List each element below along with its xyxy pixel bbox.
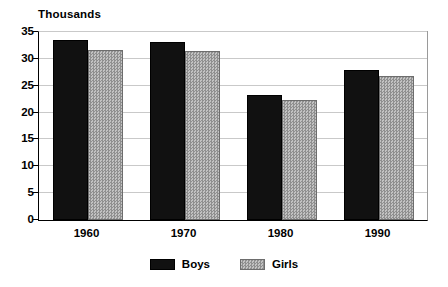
bar-group [247, 32, 317, 220]
y-tick-label: 35 [8, 25, 34, 37]
bar-group [150, 32, 220, 220]
y-tick-label: 15 [8, 132, 34, 144]
y-tick-label: 10 [8, 159, 34, 171]
y-tick-label: 0 [8, 213, 34, 225]
bar-boys-1970 [150, 42, 185, 220]
bar-girls-1970 [185, 51, 220, 220]
bar-chart: Thousands 05101520253035 196019701980199… [0, 0, 448, 287]
chart-title: Thousands [38, 8, 101, 20]
bar-boys-1960 [53, 40, 88, 220]
bar-girls-1980 [282, 100, 317, 220]
legend-swatch-girls [240, 259, 265, 270]
y-tick-label: 30 [8, 52, 34, 64]
x-tick-label: 1980 [268, 227, 294, 239]
bar-girls-1990 [379, 76, 414, 220]
x-tick-label: 1960 [74, 227, 100, 239]
plot-area [38, 31, 428, 221]
bar-boys-1990 [344, 70, 379, 220]
legend-item-boys: Boys [150, 258, 210, 270]
y-tick-label: 5 [8, 186, 34, 198]
bar-girls-1960 [88, 50, 123, 220]
legend-item-girls: Girls [240, 258, 298, 270]
y-tick-label: 25 [8, 79, 34, 91]
y-tick-label: 20 [8, 106, 34, 118]
chart-legend: BoysGirls [0, 258, 448, 270]
legend-swatch-boys [150, 259, 175, 270]
legend-label-boys: Boys [182, 258, 210, 270]
x-tick-label: 1990 [365, 227, 391, 239]
x-tick-label: 1970 [171, 227, 197, 239]
bar-group [344, 32, 414, 220]
bar-group [53, 32, 123, 220]
bar-boys-1980 [247, 95, 282, 220]
legend-label-girls: Girls [272, 258, 298, 270]
